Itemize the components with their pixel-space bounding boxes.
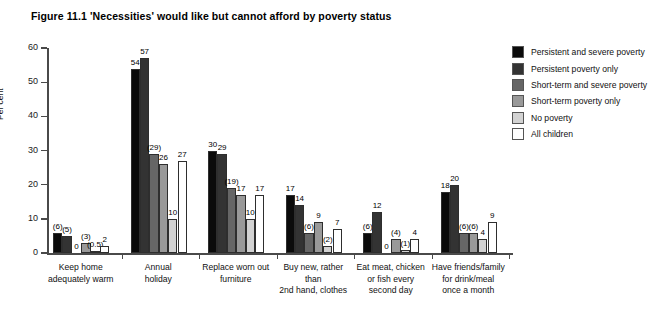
bar-value-label: (6) xyxy=(363,222,373,231)
bar-value-label: (5) xyxy=(62,225,72,234)
x-axis-category-label: Eat meat, chickenor fish everysecond day xyxy=(352,262,430,297)
bar-value-label: (6) xyxy=(469,222,479,231)
bar xyxy=(255,195,264,253)
bar xyxy=(168,219,177,253)
legend-item: Persistent poverty only xyxy=(512,60,662,76)
y-tick-label: 60 xyxy=(0,42,38,52)
bar xyxy=(246,219,255,253)
legend-label: All children xyxy=(531,129,573,139)
y-tick-mark xyxy=(41,150,47,151)
y-tick-mark xyxy=(41,82,47,83)
y-tick-label: 50 xyxy=(0,76,38,86)
x-axis-group-separator xyxy=(354,253,355,259)
legend-color-swatch xyxy=(512,95,524,107)
bar-value-label: 57 xyxy=(140,47,149,56)
bar xyxy=(53,233,62,254)
bar-value-label: (6) xyxy=(304,222,314,231)
category-label-line: once a month xyxy=(430,285,508,297)
bar xyxy=(488,222,497,253)
bar-value-label: 17 xyxy=(286,184,295,193)
bar xyxy=(178,161,187,253)
bar xyxy=(62,236,71,253)
bar xyxy=(391,239,400,253)
legend-item: All children xyxy=(512,126,662,142)
legend-color-swatch xyxy=(512,112,524,124)
legend-label: Short-term and severe poverty xyxy=(531,80,647,90)
bar xyxy=(323,246,332,253)
category-label-line: Annual xyxy=(120,262,198,274)
category-label-line: Have friends/family xyxy=(430,262,508,274)
legend-color-swatch xyxy=(512,128,524,140)
x-axis-group-separator xyxy=(432,253,433,259)
bar xyxy=(401,250,410,253)
y-tick-label: 20 xyxy=(0,179,38,189)
x-axis-category-label: Buy new, rather than2nd hand, clothes xyxy=(275,262,353,297)
category-label-line: 2nd hand, clothes xyxy=(275,285,353,297)
x-axis-category-label: Keep homeadequately warm xyxy=(42,262,120,285)
legend-label: Short-term poverty only xyxy=(531,96,620,106)
bar xyxy=(469,233,478,254)
x-axis-category-label: Have friends/familyfor drink/mealonce a … xyxy=(430,262,508,297)
bar xyxy=(304,233,313,254)
category-label-line: for drink/meal xyxy=(430,274,508,286)
bar xyxy=(208,151,217,254)
bar xyxy=(450,185,459,253)
bar xyxy=(314,222,323,253)
x-axis-category-label: Replace worn outfurniture xyxy=(197,262,275,285)
bar xyxy=(459,233,468,254)
bar-value-label: (1) xyxy=(400,239,410,248)
bar-value-label: 4 xyxy=(412,228,416,237)
bar-value-label: 9 xyxy=(316,211,320,220)
bar-value-label: 7 xyxy=(335,218,339,227)
bar xyxy=(363,233,372,254)
category-label-line: holiday xyxy=(120,274,198,286)
bar-value-label: 0 xyxy=(384,242,388,251)
bar-value-label: 0 xyxy=(74,242,78,251)
y-tick-mark xyxy=(41,116,47,117)
category-label-line: or fish every xyxy=(352,274,430,286)
category-label-line: furniture xyxy=(197,274,275,286)
bar-value-label: 9 xyxy=(490,211,494,220)
x-axis-group-separator xyxy=(277,253,278,259)
bar xyxy=(100,246,109,253)
bar-value-label: 26 xyxy=(159,153,168,162)
legend-color-swatch xyxy=(512,46,524,58)
y-tick-mark xyxy=(41,252,47,253)
bar-value-label: (6) xyxy=(53,222,63,231)
x-axis-line xyxy=(47,253,513,255)
legend-label: No poverty xyxy=(531,113,573,123)
bar xyxy=(91,251,100,253)
category-label-line: Replace worn out xyxy=(197,262,275,274)
bar-value-label: (4) xyxy=(391,228,401,237)
bar-value-label: 17 xyxy=(255,184,264,193)
bar xyxy=(333,229,342,253)
bar-value-label: 10 xyxy=(168,208,177,217)
legend-label: Persistent poverty only xyxy=(531,64,618,74)
y-axis-line xyxy=(47,48,49,254)
bar xyxy=(478,239,487,253)
y-tick-label: 30 xyxy=(0,145,38,155)
legend-color-swatch xyxy=(512,79,524,91)
bar-value-label: 29 xyxy=(218,143,227,152)
bar-value-label: 18 xyxy=(441,181,450,190)
bar-value-label: 30 xyxy=(208,140,217,149)
legend-color-swatch xyxy=(512,63,524,75)
legend-item: Short-term and severe poverty xyxy=(512,77,662,93)
bar-value-label: 27 xyxy=(178,150,187,159)
y-tick-label: 40 xyxy=(0,110,38,120)
bar xyxy=(140,58,149,253)
bar xyxy=(149,154,158,253)
category-label-line: second day xyxy=(352,285,430,297)
bar xyxy=(286,195,295,253)
category-label-line: Buy new, rather than xyxy=(275,262,353,285)
bar xyxy=(159,164,168,253)
bar xyxy=(295,205,304,253)
bar-value-label: 12 xyxy=(373,201,382,210)
y-tick-label: 0 xyxy=(0,247,38,257)
bar xyxy=(236,195,245,253)
bar-value-label: 20 xyxy=(450,174,459,183)
category-label-line: Keep home xyxy=(42,262,120,274)
legend: Persistent and severe povertyPersistent … xyxy=(512,44,662,142)
y-tick-mark xyxy=(41,184,47,185)
bar-value-label: 2 xyxy=(102,235,106,244)
